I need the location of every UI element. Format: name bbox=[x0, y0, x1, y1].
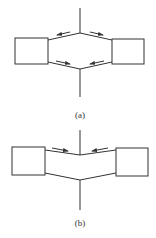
caption-b: (b) bbox=[75, 218, 86, 228]
right-box-a bbox=[112, 39, 144, 64]
left-box-b bbox=[12, 147, 45, 175]
left-box-a bbox=[15, 38, 48, 64]
arrow-icon bbox=[90, 61, 104, 64]
lower-right-member-b bbox=[80, 173, 116, 180]
upper-right-member-b bbox=[80, 150, 116, 155]
upper-right-member-a bbox=[80, 33, 112, 40]
arrow-icon bbox=[90, 32, 103, 35]
upper-left-member-b bbox=[45, 150, 80, 155]
panel-b bbox=[12, 130, 148, 210]
upper-left-member-a bbox=[48, 33, 80, 40]
arrow-icon bbox=[56, 61, 70, 64]
arrow-icon bbox=[52, 148, 68, 151]
arrow-icon bbox=[57, 32, 70, 35]
right-box-b bbox=[116, 148, 148, 176]
lower-left-member-b bbox=[45, 173, 80, 180]
arrow-icon bbox=[92, 148, 108, 151]
caption-a: (a) bbox=[75, 110, 85, 120]
panel-a bbox=[15, 8, 144, 97]
